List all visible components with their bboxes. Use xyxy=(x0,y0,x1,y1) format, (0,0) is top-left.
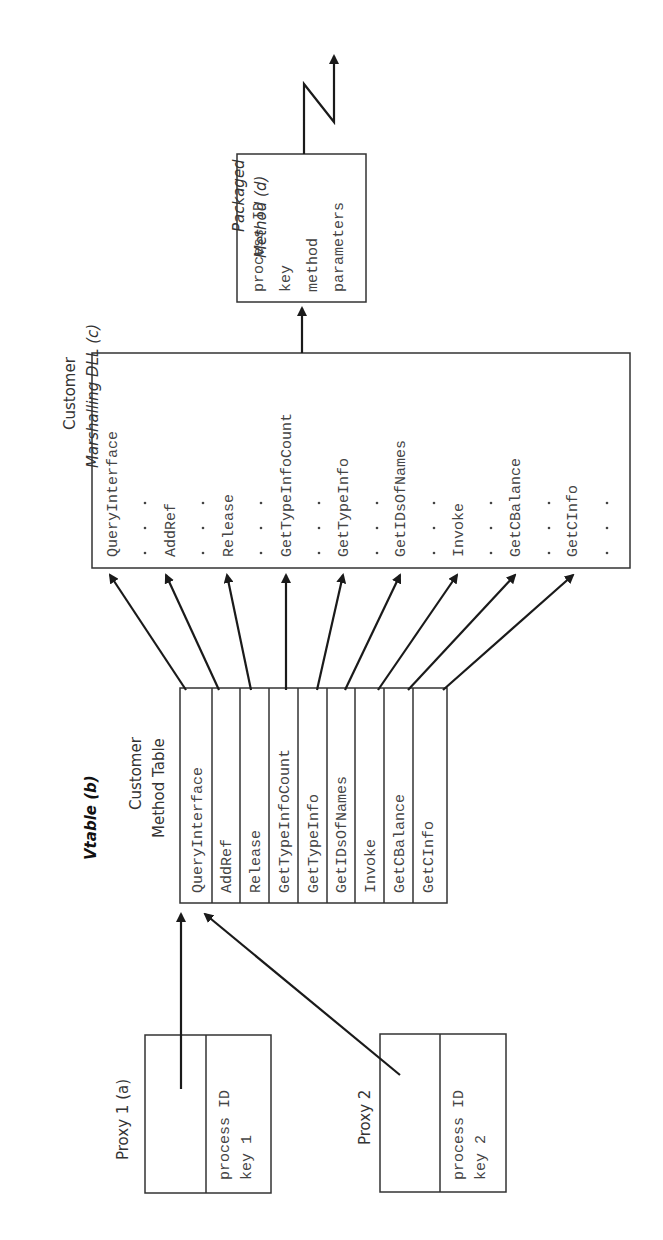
vtable-entry: QueryInterface xyxy=(190,767,207,893)
vtable-box: QueryInterface AddRef Release GetTypeInf… xyxy=(180,688,447,903)
vtable-entry: GetTypeInfoCount xyxy=(277,749,294,893)
packaged-line: parameters xyxy=(331,202,348,292)
vtable-entry: GetIDsOfNames xyxy=(334,776,351,893)
dll-entry: GetCInfo xyxy=(565,485,582,557)
dll-entry: GetIDsOfNames xyxy=(393,440,410,557)
dll-title: Customer xyxy=(61,356,79,430)
vtable-title: Vtable (b) xyxy=(82,775,100,860)
vtable-entry: GetCInfo xyxy=(421,821,438,893)
vtable-entry: Release xyxy=(248,830,265,893)
proxy-1-line: key 1 xyxy=(239,1135,256,1180)
com-marshalling-diagram: Proxy 1 (a) process ID key 1 Proxy 2 pro… xyxy=(0,0,663,1240)
dll-entry: QueryInterface xyxy=(105,431,122,557)
dll-entry: GetTypeInfo xyxy=(336,458,353,557)
vtable-entry: GetTypeInfo xyxy=(306,794,323,893)
vtable-entry: AddRef xyxy=(219,839,236,893)
proxy-2-line: process ID xyxy=(451,1090,468,1180)
dll-entry: Invoke xyxy=(451,503,468,557)
marshalling-dll-box: QueryInterface AddRef Release GetTypeInf… xyxy=(92,353,630,568)
proxy-2-arrow xyxy=(205,914,400,1075)
dll-title: Marshalling DLL (c) xyxy=(84,324,102,468)
dll-entry: GetTypeInfoCount xyxy=(279,413,296,557)
vtable-subtitle: Method Table xyxy=(150,738,168,838)
dll-entry: GetCBalance xyxy=(508,458,525,557)
packaged-line: process ID xyxy=(251,202,268,292)
proxy-2-line: key 2 xyxy=(473,1135,490,1180)
packaged-line: method xyxy=(305,238,322,292)
proxy-2-label: Proxy 2 xyxy=(356,1090,374,1145)
network-transmit-zigzag-icon xyxy=(304,58,334,154)
packaged-title: Packaged xyxy=(230,159,248,232)
packaged-line: key xyxy=(278,265,295,292)
dll-ellipsis-dots xyxy=(144,502,609,555)
vtable-entry: GetCBalance xyxy=(392,794,409,893)
dll-entry: Release xyxy=(221,494,238,557)
proxy-1-label: Proxy 1 (a) xyxy=(114,1079,132,1160)
vtable-entry: Invoke xyxy=(363,839,380,893)
vtable-to-dll-arrows xyxy=(110,575,573,690)
vtable-subtitle: Customer xyxy=(127,736,145,810)
dll-entry: AddRef xyxy=(163,503,180,557)
proxy-1-line: process ID xyxy=(217,1090,234,1180)
proxy-1: Proxy 1 (a) process ID key 1 xyxy=(114,1035,271,1193)
